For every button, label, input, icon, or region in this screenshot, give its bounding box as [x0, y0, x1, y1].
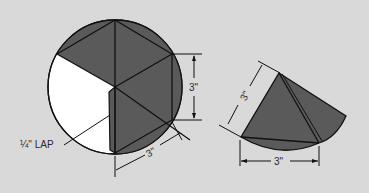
label-base-3in: 3"	[274, 156, 284, 167]
label-lap: ¼" LAP	[20, 139, 54, 150]
right-figure-cone	[241, 73, 346, 150]
left-figure-disk	[48, 20, 190, 154]
label-vertical-3in: 3"	[189, 82, 199, 93]
diagram-stage: 3" 3" ¼" LAP 3"	[0, 0, 369, 193]
cone-pattern-diagram: 3" 3" ¼" LAP 3"	[0, 0, 369, 193]
label-diagonal-3in: 3"	[144, 145, 158, 159]
label-slant-3in: 3"	[238, 89, 252, 103]
